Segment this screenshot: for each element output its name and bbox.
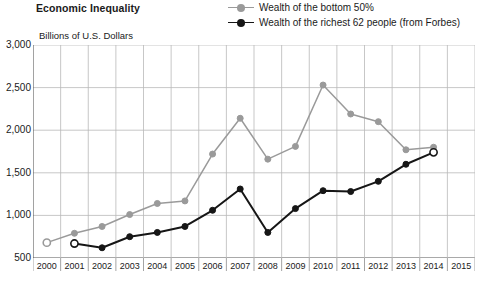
series-line bbox=[47, 85, 434, 243]
data-point bbox=[127, 212, 133, 218]
data-point bbox=[403, 147, 409, 153]
data-point bbox=[375, 119, 381, 125]
legend-marker-black-icon bbox=[228, 16, 254, 28]
data-point bbox=[182, 198, 188, 204]
y-tick-label: 2,500 bbox=[0, 82, 31, 93]
chart-title: Economic Inequality bbox=[36, 2, 140, 14]
data-point bbox=[237, 186, 243, 192]
data-point bbox=[43, 239, 50, 246]
data-point bbox=[265, 229, 271, 235]
data-point bbox=[99, 245, 105, 251]
data-point bbox=[182, 223, 188, 229]
y-tick-label: 3,000 bbox=[0, 39, 31, 50]
y-tick-label: 1,500 bbox=[0, 167, 31, 178]
legend-label-richest-62: Wealth of the richest 62 people (from Fo… bbox=[259, 17, 460, 28]
y-axis-label: Billions of U.S. Dollars bbox=[39, 30, 133, 41]
legend-item-bottom-50: Wealth of the bottom 50% bbox=[228, 0, 460, 14]
data-point bbox=[210, 151, 216, 157]
legend-label-bottom-50: Wealth of the bottom 50% bbox=[259, 2, 374, 13]
chart-root: Economic Inequality Wealth of the bottom… bbox=[0, 0, 500, 290]
plot-area bbox=[33, 45, 475, 258]
data-point bbox=[71, 240, 78, 247]
data-point bbox=[292, 143, 298, 149]
y-tick-label: 2,000 bbox=[0, 124, 31, 135]
data-point bbox=[403, 161, 409, 167]
data-point bbox=[320, 82, 326, 88]
data-point bbox=[348, 189, 354, 195]
data-point bbox=[71, 230, 77, 236]
data-point bbox=[292, 206, 298, 212]
plot-svg bbox=[33, 45, 475, 258]
legend-item-richest-62: Wealth of the richest 62 people (from Fo… bbox=[228, 15, 460, 29]
data-point bbox=[154, 229, 160, 235]
data-point bbox=[210, 207, 216, 213]
data-point bbox=[237, 115, 243, 121]
y-tick-label: 500 bbox=[0, 252, 31, 263]
data-point bbox=[127, 234, 133, 240]
data-point bbox=[430, 149, 437, 156]
data-point bbox=[348, 111, 354, 117]
data-point bbox=[265, 156, 271, 162]
data-point bbox=[320, 188, 326, 194]
data-point bbox=[375, 178, 381, 184]
data-point bbox=[154, 200, 160, 206]
legend-marker-gray-icon bbox=[228, 1, 254, 13]
y-tick-label: 1,000 bbox=[0, 209, 31, 220]
chart-legend: Wealth of the bottom 50% Wealth of the r… bbox=[228, 0, 460, 30]
x-axis-ticks bbox=[33, 258, 475, 272]
data-point bbox=[99, 223, 105, 229]
